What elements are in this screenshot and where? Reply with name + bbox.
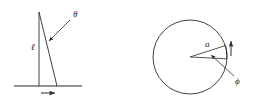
phi-label: ϕ [235, 76, 240, 86]
radius-label: a [205, 39, 210, 49]
angle-leader-arrow [49, 20, 70, 41]
length-label: ℓ [31, 42, 35, 52]
physics-figure-container: θ ℓ a ϕ [0, 0, 254, 103]
theta-label: θ [73, 9, 78, 19]
circle-panel: a ϕ [153, 20, 240, 94]
rod-line [39, 12, 57, 86]
figure-canvas: θ ℓ a ϕ [0, 0, 254, 103]
angle-leader-arrow [211, 55, 234, 76]
pendulum-panel: θ ℓ [14, 9, 82, 93]
radius-line-lower [190, 57, 227, 59]
